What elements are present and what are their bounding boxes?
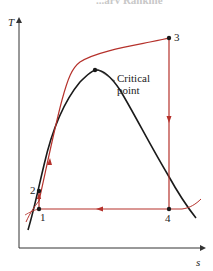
s-axis-label: s xyxy=(196,256,200,268)
state-3-marker xyxy=(167,36,171,40)
ts-diagram: T s Critical point 1 2 3 4 xyxy=(0,0,213,271)
state-3-label: 3 xyxy=(174,31,180,43)
t-axis-label: T xyxy=(8,16,15,28)
critical-point-leader xyxy=(97,69,115,81)
arrow-icon-3-4 xyxy=(167,116,172,123)
state-1-label: 1 xyxy=(40,211,46,223)
arrow-icon-4-1 xyxy=(96,207,103,212)
state-4-label: 4 xyxy=(165,212,171,224)
saturation-dome xyxy=(28,70,196,230)
critical-point-marker xyxy=(93,68,97,72)
critical-point-label: Critical xyxy=(117,72,150,84)
state-2-label: 2 xyxy=(30,184,36,196)
state-4-marker xyxy=(167,207,171,211)
critical-point-label-2: point xyxy=(117,84,140,96)
state-2-marker xyxy=(37,189,41,193)
